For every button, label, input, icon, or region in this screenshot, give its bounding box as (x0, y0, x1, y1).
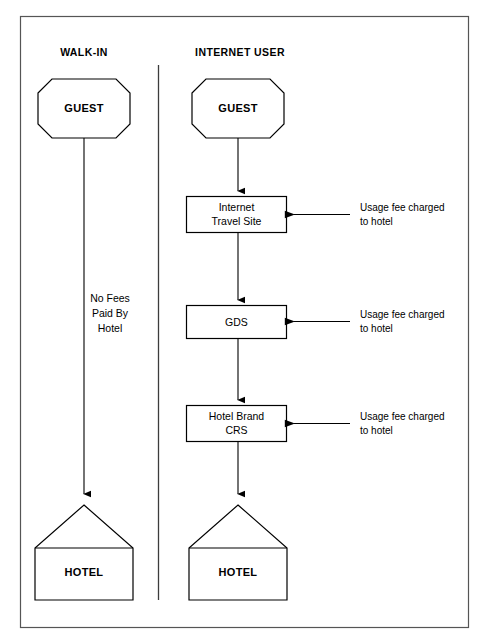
walk-in-lane: GUEST No Fees Paid By Hotel HOTEL (35, 79, 133, 600)
walkin-fee-note-line-1: No Fees (90, 292, 130, 304)
annotation-gds-line-2: to hotel (360, 323, 393, 334)
flow-diagram: WALK-IN INTERNET USER GUEST No Fees Paid… (0, 0, 481, 641)
node-walkin-guest-label: GUEST (64, 102, 103, 114)
annotation-crs-line-2: to hotel (360, 425, 393, 436)
node-internet-hotel-shape (189, 505, 287, 600)
node-walkin-hotel-shape (35, 505, 133, 600)
walkin-fee-note-line-2: Paid By (92, 307, 129, 319)
node-hotel-brand-crs-label-line-2: CRS (225, 424, 247, 436)
column-header-internet-user: INTERNET USER (195, 46, 285, 58)
internet-user-lane: GUEST Internet Travel Site Usage fee cha… (187, 79, 445, 600)
annotation-crs-line-1: Usage fee charged (360, 411, 445, 422)
annotation-travel-site-line-1: Usage fee charged (360, 202, 445, 213)
walkin-fee-note: No Fees Paid By Hotel (90, 292, 130, 334)
walkin-fee-note-line-3: Hotel (98, 322, 123, 334)
annotation-gds-line-1: Usage fee charged (360, 309, 445, 320)
annotation-travel-site-line-2: to hotel (360, 216, 393, 227)
node-internet-travel-site-label-line-1: Internet (219, 201, 255, 213)
node-walkin-hotel-label: HOTEL (65, 566, 104, 578)
diagram-canvas: WALK-IN INTERNET USER GUEST No Fees Paid… (0, 0, 481, 641)
node-internet-travel-site-label-line-2: Travel Site (212, 215, 262, 227)
node-hotel-brand-crs-label-line-1: Hotel Brand (209, 410, 265, 422)
column-header-walk-in: WALK-IN (60, 46, 108, 58)
node-internet-hotel-label: HOTEL (219, 566, 258, 578)
node-internet-guest-label: GUEST (218, 102, 257, 114)
node-gds-label: GDS (225, 316, 248, 328)
